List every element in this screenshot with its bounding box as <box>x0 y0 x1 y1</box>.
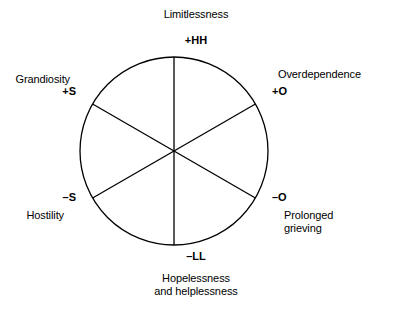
axis-label-hostility: Hostility <box>26 209 64 222</box>
axis-tick-prolonged-grieving: –O <box>272 191 287 204</box>
axis-label-hopelessness-helplessness: Hopelessness and helplessness <box>126 272 266 298</box>
axis-label-prolonged-grieving-line2: grieving <box>284 222 364 235</box>
circle-graphic <box>0 0 393 315</box>
axis-tick-overdependence: +O <box>272 85 287 98</box>
axis-tick-limitlessness: +HH <box>185 34 207 47</box>
axis-label-hopelessness-line2: and helplessness <box>126 285 266 298</box>
axis-label-hopelessness-line1: Hopelessness <box>126 272 266 285</box>
axis-tick-hostility: –S <box>63 191 76 204</box>
axis-label-overdependence: Overdependence <box>278 68 361 81</box>
axis-label-limitlessness: Limitlessness <box>164 8 229 21</box>
axis-label-prolonged-grieving: Prolonged grieving <box>284 209 364 235</box>
axis-tick-grandiosity: +S <box>62 85 76 98</box>
circumplex-diagram: Limitlessness +HH Overdependence +O Prol… <box>0 0 393 315</box>
axis-label-prolonged-grieving-line1: Prolonged <box>284 209 364 222</box>
axis-tick-hopelessness-helplessness: –LL <box>186 250 206 263</box>
